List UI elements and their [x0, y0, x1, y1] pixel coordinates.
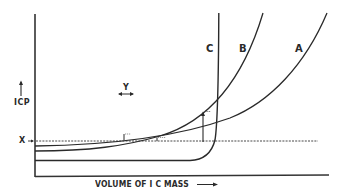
x-axis	[35, 175, 329, 177]
threshold-label-x: X	[19, 137, 26, 145]
curve-label-c: C	[206, 44, 213, 54]
y-axis-label: ICP	[14, 99, 30, 107]
curve-a	[35, 13, 327, 146]
y-shift-arrowhead-left	[118, 92, 122, 96]
icp-volume-diagram	[0, 0, 342, 196]
curve-label-a: A	[295, 44, 303, 54]
x-axis-label: VOLUME OF I C MASS	[95, 181, 189, 189]
curve-label-b: B	[239, 44, 247, 54]
annotation-y-label: Y	[123, 84, 129, 92]
y-shift-arrowhead-right	[130, 92, 134, 96]
y-axis-arrowhead	[19, 81, 23, 86]
x-marker-arrowhead	[31, 140, 34, 143]
curve-b	[35, 13, 263, 151]
x-axis-arrowhead	[213, 183, 218, 187]
